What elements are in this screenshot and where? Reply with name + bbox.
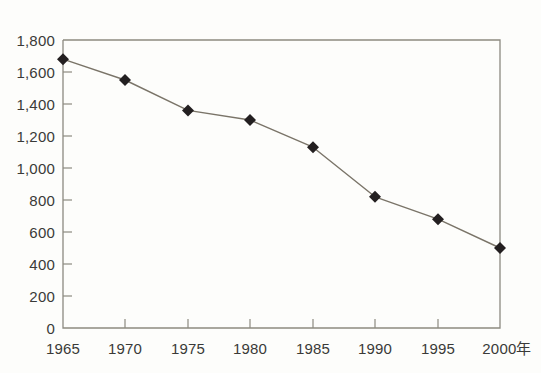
y-tick-label-600: 600	[3, 225, 55, 240]
y-tick-label-0: 0	[3, 321, 55, 336]
x-axis-ticks	[125, 319, 438, 328]
y-tick-label-1400: 1,400	[3, 97, 55, 112]
chart-plot-area	[0, 0, 541, 373]
y-tick-label-1800: 1,800	[3, 33, 55, 48]
x-tick-label-1970: 1970	[108, 341, 142, 356]
x-tick-label-1975: 1975	[171, 341, 205, 356]
y-tick-label-1000: 1,000	[3, 161, 55, 176]
y-tick-label-1600: 1,600	[3, 65, 55, 80]
axis-frame	[63, 40, 500, 328]
x-tick-label-1965: 1965	[46, 341, 80, 356]
x-tick-label-1995: 1995	[421, 341, 455, 356]
x-tick-label-1985: 1985	[296, 341, 330, 356]
y-tick-label-200: 200	[3, 289, 55, 304]
line-chart: 1,800 1,600 1,400 1,200 1,000 800 600 40…	[0, 0, 541, 373]
y-tick-label-1200: 1,200	[3, 129, 55, 144]
y-tick-label-800: 800	[3, 193, 55, 208]
x-tick-label-1980: 1980	[233, 341, 267, 356]
x-tick-label-2000-year: 2000年	[482, 341, 531, 356]
x-tick-label-1990: 1990	[358, 341, 392, 356]
data-point-markers	[57, 53, 506, 254]
y-axis-ticks	[63, 72, 72, 296]
y-tick-label-400: 400	[3, 257, 55, 272]
